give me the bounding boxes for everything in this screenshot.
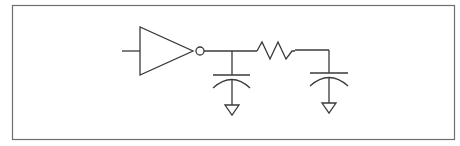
diagram-frame [13,6,455,140]
capacitor-2-icon [310,50,348,103]
ground-1-icon [225,105,239,115]
circuit-diagram [0,0,460,146]
inverter-icon [140,27,204,75]
resistor-icon [257,42,295,59]
capacitor-1-icon [213,51,250,105]
ground-2-icon [322,103,336,113]
